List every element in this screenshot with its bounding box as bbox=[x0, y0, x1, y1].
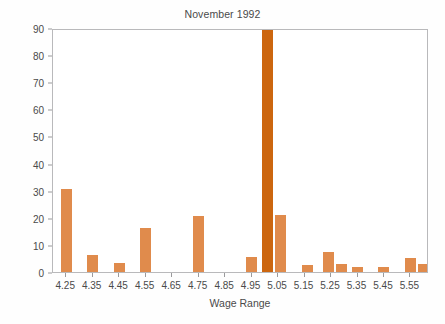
y-axis-tick-label: 0 bbox=[38, 268, 44, 279]
y-axis-tick-label: 70 bbox=[33, 78, 44, 89]
x-axis-tick-mark bbox=[251, 273, 252, 277]
x-axis-tick-label: 5.35 bbox=[347, 280, 366, 291]
bar bbox=[418, 264, 428, 272]
x-axis-tick-label: 4.45 bbox=[108, 280, 127, 291]
bar bbox=[246, 257, 257, 272]
x-axis-tick-label: 4.25 bbox=[56, 280, 75, 291]
bar bbox=[140, 228, 151, 272]
bar bbox=[61, 189, 72, 272]
bar bbox=[378, 267, 389, 272]
y-axis-tick-label: 90 bbox=[33, 24, 44, 35]
x-axis-tick-mark bbox=[383, 273, 384, 277]
bar-series bbox=[53, 30, 427, 272]
y-axis-tick-label: 60 bbox=[33, 105, 44, 116]
y-axis-tick-label: 30 bbox=[33, 186, 44, 197]
y-axis-tick-label: 20 bbox=[33, 213, 44, 224]
bar bbox=[275, 215, 286, 272]
chart-figure: November 1992 Percentage of Stores 01020… bbox=[0, 0, 445, 324]
bar bbox=[262, 29, 273, 272]
x-axis-tick-mark bbox=[92, 273, 93, 277]
x-axis-tick-mark bbox=[357, 273, 358, 277]
bar bbox=[193, 216, 204, 272]
x-axis-tick-mark bbox=[198, 273, 199, 277]
x-axis-tick-mark bbox=[118, 273, 119, 277]
x-axis-tick-label: 4.65 bbox=[161, 280, 180, 291]
bar bbox=[352, 267, 363, 272]
y-axis-tick-label: 50 bbox=[33, 132, 44, 143]
x-axis-tick-label: 4.75 bbox=[188, 280, 207, 291]
x-axis-tick-mark bbox=[304, 273, 305, 277]
plot-area bbox=[52, 29, 428, 273]
x-axis-tick-mark bbox=[65, 273, 66, 277]
chart-title: November 1992 bbox=[0, 8, 445, 20]
y-axis-tick-label: 10 bbox=[33, 240, 44, 251]
x-axis-tick-mark bbox=[330, 273, 331, 277]
x-axis-tick-label: 5.15 bbox=[294, 280, 313, 291]
x-axis-title: Wage Range bbox=[52, 297, 428, 309]
x-axis-tick-label: 5.55 bbox=[400, 280, 419, 291]
y-axis: 0102030405060708090 bbox=[0, 29, 52, 273]
x-axis-tick-mark bbox=[409, 273, 410, 277]
bar bbox=[114, 263, 125, 272]
x-axis-tick-mark bbox=[145, 273, 146, 277]
bar bbox=[405, 258, 416, 272]
bar bbox=[302, 265, 313, 272]
bar bbox=[336, 264, 347, 272]
x-axis-tick-label: 4.95 bbox=[241, 280, 260, 291]
x-axis-tick-label: 4.55 bbox=[135, 280, 154, 291]
bar bbox=[323, 252, 334, 272]
x-axis-tick-label: 5.45 bbox=[373, 280, 392, 291]
x-axis-tick-label: 4.35 bbox=[82, 280, 101, 291]
x-axis: 4.254.354.454.554.654.754.854.955.055.15… bbox=[52, 273, 428, 295]
x-axis-tick-label: 5.05 bbox=[267, 280, 286, 291]
x-axis-tick-mark bbox=[224, 273, 225, 277]
y-axis-tick-label: 40 bbox=[33, 159, 44, 170]
x-axis-tick-label: 5.25 bbox=[320, 280, 339, 291]
x-axis-tick-mark bbox=[277, 273, 278, 277]
bar bbox=[87, 255, 98, 272]
x-axis-tick-mark bbox=[171, 273, 172, 277]
x-axis-tick-label: 4.85 bbox=[214, 280, 233, 291]
y-axis-tick-label: 80 bbox=[33, 51, 44, 62]
